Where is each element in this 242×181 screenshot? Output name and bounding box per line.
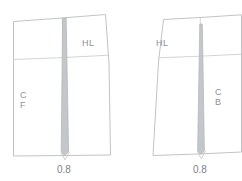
back-hip-line-label: HL: [156, 38, 168, 48]
front-panel-group: C F HL 0.8: [14, 15, 111, 176]
pattern-draft-svg: C F HL 0.8 HL C B 0.8: [0, 0, 242, 181]
front-dart-shape: [61, 18, 68, 155]
back-panel-group: HL C B 0.8: [153, 15, 242, 175]
pattern-diagram-canvas: C F HL 0.8 HL C B 0.8: [0, 0, 242, 181]
front-hip-line-label: HL: [82, 38, 94, 48]
back-center-label-b: B: [215, 97, 221, 107]
back-dart-dimension: 0.8: [193, 164, 207, 175]
front-center-label-f: F: [20, 100, 26, 110]
front-center-label-c: C: [20, 90, 27, 100]
front-hip-line: [14, 55, 110, 59]
back-center-label-c: C: [215, 87, 222, 97]
back-panel-outline: [153, 15, 242, 156]
back-dart-shape: [198, 24, 205, 154]
front-dart-dimension: 0.8: [57, 164, 71, 175]
